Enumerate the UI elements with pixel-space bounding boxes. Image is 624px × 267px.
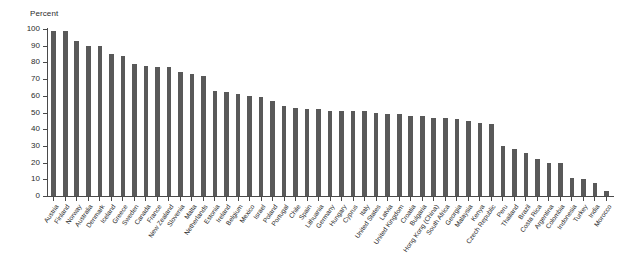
x-label-slot: Hungary — [336, 201, 348, 267]
bar-slot — [221, 29, 233, 196]
x-label-slot: Sweden — [129, 201, 141, 267]
bar-slot — [313, 29, 325, 196]
bar-slot — [152, 29, 164, 196]
bar-slot — [440, 29, 452, 196]
bar-slot — [255, 29, 267, 196]
bar — [489, 124, 494, 196]
bar — [282, 106, 287, 196]
bar — [259, 97, 264, 196]
bar — [558, 163, 563, 196]
x-label-slot: Lithuania — [313, 201, 325, 267]
bar — [132, 64, 137, 196]
bar-slot — [175, 29, 187, 196]
x-label-slot: Portugal — [278, 201, 290, 267]
bar — [385, 114, 390, 196]
bar — [144, 66, 149, 196]
bar — [190, 74, 195, 196]
bar-slot — [463, 29, 475, 196]
x-label-slot: Netherlands — [198, 201, 210, 267]
bar — [501, 146, 506, 196]
x-label-slot: Poland — [267, 201, 279, 267]
bar-slot — [186, 29, 198, 196]
bar — [397, 114, 402, 196]
x-label-slot: India — [589, 201, 601, 267]
bar-slot — [324, 29, 336, 196]
y-axis-tick-label: 10 — [18, 175, 40, 183]
bar-slot — [140, 29, 152, 196]
x-label-slot: Thailand — [509, 201, 521, 267]
x-label-slot: Finland — [60, 201, 72, 267]
x-label-slot: Chile — [290, 201, 302, 267]
bar-slot — [71, 29, 83, 196]
y-axis-tick-label: 70 — [18, 75, 40, 83]
y-axis-tick-label: 40 — [18, 125, 40, 133]
x-label-slot: Iceland — [106, 201, 118, 267]
bar — [305, 109, 310, 196]
x-label-slot: Mexico — [244, 201, 256, 267]
x-label-slot: Israel — [255, 201, 267, 267]
bar-slot — [451, 29, 463, 196]
x-label-slot: Turkey — [578, 201, 590, 267]
bar-slot — [48, 29, 60, 196]
bar-slot — [301, 29, 313, 196]
bar — [178, 72, 183, 196]
bar-slot — [359, 29, 371, 196]
bar-slot — [209, 29, 221, 196]
bar-slot — [405, 29, 417, 196]
bar-slot — [382, 29, 394, 196]
x-label-slot: Australia — [83, 201, 95, 267]
bar — [293, 108, 298, 197]
x-label-slot: Spain — [301, 201, 313, 267]
bar — [236, 94, 241, 196]
bar-slot — [232, 29, 244, 196]
x-label-slot: Germany — [324, 201, 336, 267]
bar — [604, 191, 609, 196]
bar — [351, 111, 356, 196]
bar-slot — [428, 29, 440, 196]
x-label-slot: Colombia — [555, 201, 567, 267]
bar — [63, 31, 68, 196]
bar-slot — [370, 29, 382, 196]
bar — [593, 183, 598, 196]
bar — [121, 56, 126, 196]
bar — [247, 96, 252, 196]
x-label-slot: Ireland — [221, 201, 233, 267]
bar — [316, 109, 321, 196]
bar — [98, 46, 103, 196]
x-label-slot: Morocco — [601, 201, 613, 267]
bar-slot — [543, 29, 555, 196]
bar-slot — [278, 29, 290, 196]
y-axis-title: Percent — [30, 9, 58, 18]
bar-slot — [578, 29, 590, 196]
bar-slot — [163, 29, 175, 196]
bar — [155, 67, 160, 196]
bar-slot — [589, 29, 601, 196]
bar-chart: Percent 0102030405060708090100 AustriaFi… — [0, 0, 624, 267]
bar-slot — [509, 29, 521, 196]
bar-slot — [290, 29, 302, 196]
bar — [455, 119, 460, 196]
bar — [547, 163, 552, 196]
bar — [109, 54, 114, 196]
bar — [213, 91, 218, 196]
bar-slot — [486, 29, 498, 196]
bar — [201, 76, 206, 196]
bar-slot — [532, 29, 544, 196]
bar-slot — [336, 29, 348, 196]
bar — [51, 31, 56, 196]
y-axis-tick-label: 0 — [18, 192, 40, 200]
bar — [466, 121, 471, 196]
bar-slot — [60, 29, 72, 196]
bar — [167, 67, 172, 196]
bar — [86, 46, 91, 196]
x-label-slot: Belgium — [232, 201, 244, 267]
bar-slot — [83, 29, 95, 196]
bar — [74, 41, 79, 196]
bar — [524, 153, 529, 196]
y-axis-tick-label: 90 — [18, 42, 40, 50]
bar — [431, 118, 436, 196]
bar-slot — [347, 29, 359, 196]
bar-slot — [129, 29, 141, 196]
bar — [339, 111, 344, 196]
bar — [374, 113, 379, 197]
